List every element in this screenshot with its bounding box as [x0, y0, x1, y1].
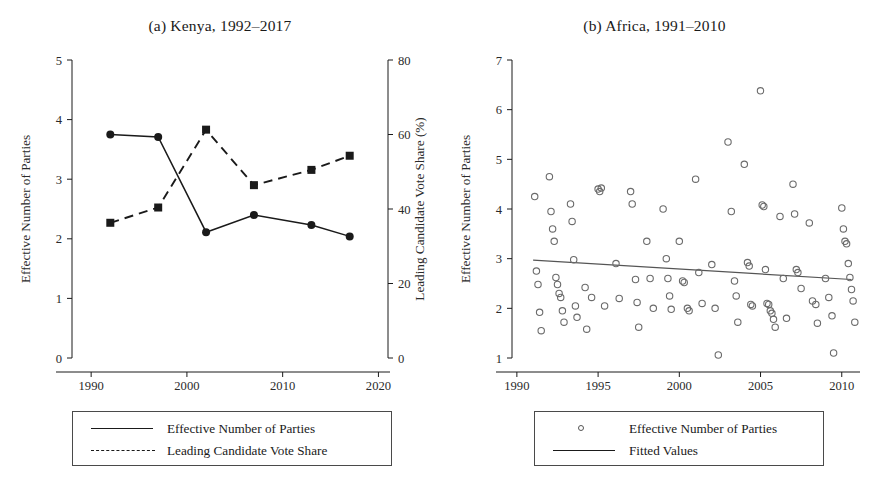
scatter-point [572, 303, 578, 309]
scatter-point [839, 205, 845, 211]
scatter-point [757, 88, 763, 94]
scatter-point [749, 303, 755, 309]
scatter-point [770, 316, 776, 322]
scatter-point [567, 201, 573, 207]
scatter-point [647, 275, 653, 281]
scatter-point [798, 285, 804, 291]
scatter-point [681, 279, 687, 285]
legend-panel-b: Effective Number of Parties Fitted Value… [534, 411, 824, 466]
scatter-point [660, 206, 666, 212]
panel-a-right-tick-label: 80 [398, 54, 411, 68]
data-point-square [106, 219, 114, 227]
scatter-point [709, 261, 715, 267]
legend-item-vote-share: Leading Candidate Vote Share [83, 440, 327, 462]
data-point-square [154, 204, 162, 212]
scatter-point [759, 202, 765, 208]
scatter-point [829, 313, 835, 319]
data-point-square [202, 126, 210, 134]
panel-b-left-tick-label: 4 [496, 203, 503, 217]
scatter-point [712, 305, 718, 311]
panel-b-fitted-line [533, 260, 851, 279]
scatter-point [790, 181, 796, 187]
legend-label-enp-a: Effective Number of Parties [161, 421, 315, 437]
scatter-point [762, 266, 768, 272]
scatter-point [546, 174, 552, 180]
panel-a-left-axis-title: Effective Number of Parties [18, 135, 33, 283]
panel-b-left-tick-label: 3 [496, 252, 502, 266]
panel-a-left-tick-label: 0 [56, 352, 62, 366]
scatter-point [679, 278, 685, 284]
scatter-point [666, 293, 672, 299]
panel-a-right-tick-label: 60 [398, 128, 411, 142]
scatter-point [538, 328, 544, 334]
legend-label-enp-b: Effective Number of Parties [623, 421, 777, 437]
scatter-point [553, 274, 559, 280]
panel-b-x-tick-label: 2000 [667, 379, 692, 393]
panel-b-plot: 1234567Effective Number of Parties199019… [440, 0, 869, 400]
panel-a-left-tick-label: 2 [56, 232, 62, 246]
scatter-point [558, 294, 564, 300]
scatter-point [588, 294, 594, 300]
scatter-point [569, 218, 575, 224]
scatter-point [791, 211, 797, 217]
panel-a-x-tick-label: 1990 [79, 379, 104, 393]
panel-a-x-tick-label: 2020 [366, 379, 391, 393]
panel-a-left-tick-label: 3 [56, 173, 62, 187]
panel-a-x-tick-label: 2010 [270, 379, 295, 393]
figure-container: (a) Kenya, 1992–2017 012345Effective Num… [0, 0, 869, 486]
panel-b-left-tick-label: 5 [496, 153, 502, 167]
scatter-point [772, 324, 778, 330]
open-circle-icon [545, 419, 623, 439]
scatter-point [725, 139, 731, 145]
legend-panel-a: Effective Number of Parties Leading Cand… [72, 411, 392, 466]
scatter-point [616, 295, 622, 301]
scatter-point [613, 260, 619, 266]
scatter-point [554, 281, 560, 287]
panel-b-left-axis-title: Effective Number of Parties [458, 135, 473, 283]
panel-b-left-tick-label: 2 [496, 302, 502, 316]
scatter-point [699, 300, 705, 306]
panel-b-left-tick-label: 7 [496, 54, 502, 68]
panel-a-right-tick-label: 40 [398, 203, 411, 217]
scatter-point [748, 301, 754, 307]
panel-a-right-tick-label: 20 [398, 277, 411, 291]
scatter-point [548, 208, 554, 214]
legend-item-enp-b: Effective Number of Parties [545, 418, 777, 440]
panel-b-left-tick-label: 6 [496, 103, 502, 117]
scatter-point [644, 238, 650, 244]
scatter-point [840, 226, 846, 232]
dashed-line-icon [83, 441, 161, 461]
panel-a-right-tick-label: 0 [398, 352, 404, 366]
scatter-point [549, 226, 555, 232]
panel-a-left-tick-label: 5 [56, 54, 62, 68]
scatter-point [584, 326, 590, 332]
panel-a-left-tick-label: 4 [56, 113, 63, 127]
scatter-point [783, 315, 789, 321]
scatter-point [715, 352, 721, 358]
scatter-point [780, 275, 786, 281]
scatter-point [551, 238, 557, 244]
scatter-point [806, 220, 812, 226]
scatter-point [532, 193, 538, 199]
scatter-point [561, 319, 567, 325]
data-point-square [250, 181, 258, 189]
scatter-point [733, 293, 739, 299]
scatter-point [852, 319, 858, 325]
scatter-point [777, 213, 783, 219]
scatter-point [634, 299, 640, 305]
scatter-point [601, 303, 607, 309]
data-point-circle [307, 221, 315, 229]
panel-b-x-tick-label: 2010 [829, 379, 854, 393]
scatter-point [629, 201, 635, 207]
data-point-circle [250, 211, 258, 219]
panel-b-x-tick-label: 1995 [586, 379, 611, 393]
panel-b-x-tick-label: 1990 [504, 379, 529, 393]
data-point-circle [154, 133, 162, 141]
scatter-point [676, 238, 682, 244]
panel-a-solid-series-line [110, 135, 349, 237]
scatter-point [830, 350, 836, 356]
panel-a-plot: 012345Effective Number of Parties0204060… [0, 0, 440, 400]
scatter-point [814, 320, 820, 326]
legend-item-enp-a: Effective Number of Parties [83, 418, 315, 440]
scatter-point [845, 260, 851, 266]
